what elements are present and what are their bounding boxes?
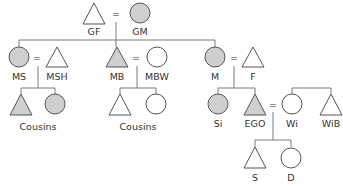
node-d: D — [281, 148, 301, 183]
node-msh: MSH — [46, 47, 68, 82]
node-ms: MS — [9, 47, 29, 82]
female-circle-icon — [130, 3, 150, 23]
label-wi: Wi — [286, 118, 298, 129]
male-triangle-icon — [46, 47, 68, 67]
node-ego: EGO — [244, 94, 266, 129]
male-triangle-icon — [244, 147, 266, 168]
marriage-sign-m-f: = — [230, 52, 238, 63]
female-circle-icon — [146, 94, 166, 114]
female-circle-icon — [147, 47, 167, 67]
female-circle-icon — [45, 94, 65, 114]
marriage-sign-mb-mbw: = — [132, 52, 140, 63]
male-triangle-icon — [106, 47, 128, 67]
label-msh: MSH — [46, 71, 67, 82]
label-d: D — [287, 172, 294, 183]
male-triangle-icon — [109, 94, 131, 115]
male-triangle-icon — [10, 94, 32, 115]
node-s: S — [244, 147, 266, 183]
node-gm: GM — [130, 3, 150, 37]
kinship-diagram: GF = GM MS = MSH MB = MBW M = F — [0, 0, 343, 186]
node-wib: WiB — [320, 94, 342, 129]
female-circle-icon — [282, 94, 302, 114]
label-ms: MS — [12, 71, 26, 82]
label-m: M — [211, 71, 219, 82]
marriage-sign-ms-msh: = — [33, 52, 41, 63]
node-f: F — [242, 47, 264, 82]
node-ms-cousin-female — [45, 94, 65, 114]
node-gf: GF — [83, 3, 105, 37]
label-ego: EGO — [245, 118, 266, 129]
node-mb-cousin-male — [109, 94, 131, 115]
marriage-sign-gf-gm: = — [112, 8, 120, 19]
node-mbw: MBW — [145, 47, 169, 82]
node-mb-cousin-female — [146, 94, 166, 114]
label-mbw: MBW — [145, 71, 169, 82]
node-mb: MB — [106, 47, 128, 82]
label-gm: GM — [132, 26, 148, 37]
female-circle-icon — [208, 94, 228, 114]
label-s: S — [252, 172, 258, 183]
node-ms-cousin-male — [10, 94, 32, 115]
label-f: F — [250, 71, 255, 82]
female-circle-icon — [281, 148, 301, 168]
node-m: M — [205, 47, 225, 82]
label-mb: MB — [110, 71, 125, 82]
marriage-sign-ego-wi: = — [269, 99, 277, 110]
label-ms-cousins: Cousins — [19, 121, 56, 132]
label-wib: WiB — [322, 118, 340, 129]
female-circle-icon — [205, 47, 225, 67]
node-wi: Wi — [282, 94, 302, 129]
female-circle-icon — [9, 47, 29, 67]
node-si: Si — [208, 94, 228, 129]
male-triangle-icon — [242, 47, 264, 67]
male-triangle-icon — [320, 94, 342, 115]
label-gf: GF — [88, 26, 101, 37]
male-triangle-icon — [244, 94, 266, 115]
label-mb-cousins: Cousins — [119, 121, 156, 132]
label-si: Si — [214, 118, 223, 129]
male-triangle-icon — [83, 3, 105, 24]
